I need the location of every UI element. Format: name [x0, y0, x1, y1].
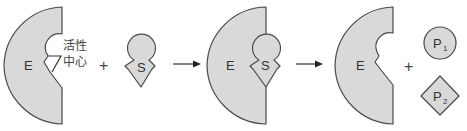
enzyme-released: E: [335, 7, 393, 124]
plus-sign-1: +: [99, 57, 108, 74]
enzyme-substrate-complex: E S: [207, 7, 281, 124]
product-1-subscript: 1: [443, 44, 448, 53]
active-site-label-line1: 活性: [63, 39, 87, 53]
product-1-label: P: [433, 36, 442, 51]
substrate: S: [125, 34, 156, 87]
complex-substrate-label: S: [261, 58, 270, 73]
product-2: P 2: [421, 76, 459, 115]
enzyme-free: E: [4, 7, 62, 124]
active-site-label-line2: 中心: [63, 54, 87, 69]
complex-enzyme-label: E: [226, 58, 235, 73]
released-enzyme-label: E: [356, 58, 365, 73]
product-2-label: P: [433, 89, 442, 104]
reaction-arrow-1: [173, 61, 201, 68]
enzyme-label: E: [24, 58, 33, 73]
active-site-pointer: [48, 56, 61, 72]
substrate-label: S: [137, 60, 146, 75]
enzyme-substrate-diagram: E 活性 中心 + S E S E + P 1: [0, 0, 467, 131]
product-2-subscript: 2: [443, 97, 448, 106]
plus-sign-2: +: [404, 58, 413, 75]
product-1: P 1: [424, 27, 456, 59]
reaction-arrow-2: [296, 61, 323, 68]
